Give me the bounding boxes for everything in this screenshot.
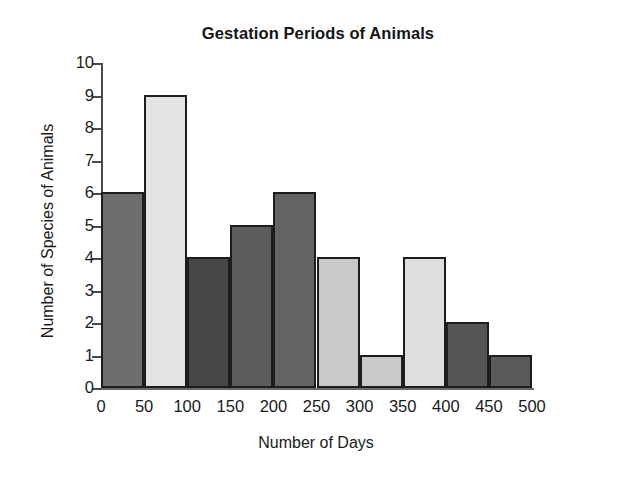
bar-400-450 bbox=[446, 322, 489, 388]
y-tick-label: 9 bbox=[85, 86, 94, 104]
y-tick-label: 1 bbox=[85, 346, 94, 364]
y-tick-label: 2 bbox=[85, 313, 94, 331]
bar-100-150 bbox=[187, 257, 230, 388]
bar-450-500 bbox=[489, 355, 532, 389]
y-tick-label: 8 bbox=[85, 118, 94, 136]
chart-figure: Gestation Periods of Animals Number of S… bbox=[0, 0, 636, 480]
bar-series bbox=[101, 63, 532, 389]
bar-150-200 bbox=[230, 225, 273, 389]
plot-area: 012345678910 050100150200250300350400450… bbox=[101, 63, 532, 388]
y-tick-label: 7 bbox=[85, 151, 94, 169]
bar-350-400 bbox=[403, 257, 446, 388]
bar-200-250 bbox=[273, 192, 316, 388]
y-tick-label: 6 bbox=[85, 183, 94, 201]
y-tick-label: 5 bbox=[85, 216, 94, 234]
bar-50-100 bbox=[144, 95, 187, 389]
y-axis-title: Number of Species of Animals bbox=[39, 61, 57, 401]
chart-title: Gestation Periods of Animals bbox=[0, 24, 636, 43]
y-tick-label: 3 bbox=[85, 281, 94, 299]
y-tick-label: 10 bbox=[76, 53, 94, 71]
bar-0-50 bbox=[101, 192, 144, 388]
x-axis-title: Number of Days bbox=[100, 434, 532, 452]
y-tick-label: 4 bbox=[85, 248, 94, 266]
bar-250-300 bbox=[317, 257, 360, 388]
x-tick-label-500: 500 bbox=[502, 397, 562, 415]
bar-300-350 bbox=[360, 355, 403, 389]
y-tick-label: 0 bbox=[85, 378, 94, 396]
